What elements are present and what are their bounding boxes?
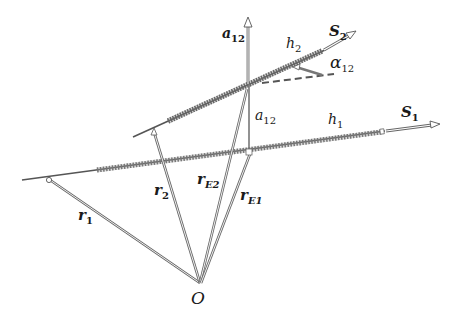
label-rE1: rE1 xyxy=(240,186,263,206)
vector-r2 xyxy=(151,128,200,283)
label-a12-mid: a12 xyxy=(255,107,276,126)
label-h1: h1 xyxy=(328,111,343,130)
label-S1: S1 xyxy=(401,103,419,123)
label-S2: S2 xyxy=(329,22,347,42)
label-a12-top: a12 xyxy=(222,25,245,44)
vector-r1 xyxy=(46,177,200,283)
diagram-canvas: O r1 r2 rE2 rE1 a12 a12 h1 h2 S1 S2 α12 xyxy=(0,0,461,317)
label-rE2: rE2 xyxy=(197,170,220,190)
line-2 xyxy=(133,50,325,137)
label-origin: O xyxy=(191,288,205,308)
label-h2: h2 xyxy=(286,35,301,54)
label-r2: r2 xyxy=(154,181,169,201)
label-alpha12: α12 xyxy=(330,52,354,74)
